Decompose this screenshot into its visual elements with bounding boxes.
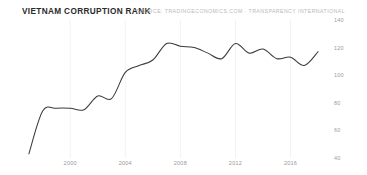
x-axis-tick-label: 2000 bbox=[64, 160, 77, 166]
data-line bbox=[29, 43, 318, 154]
x-axis-tick-label: 2012 bbox=[229, 160, 242, 166]
data-line-layer bbox=[22, 20, 325, 158]
x-axis-tick-label: 2004 bbox=[119, 160, 132, 166]
chart-source-attribution: SOURCE: TRADINGECONOMICS.COM · TRANSPARE… bbox=[136, 8, 345, 14]
page-title: VIETNAM CORRUPTION RANK bbox=[22, 6, 151, 16]
y-axis-tick-label: 100 bbox=[334, 72, 344, 78]
y-axis-tick-label: 40 bbox=[334, 155, 340, 161]
y-axis-tick-label: 80 bbox=[334, 100, 340, 106]
x-axis-tick-label: 2008 bbox=[174, 160, 187, 166]
y-axis-tick-label: 120 bbox=[334, 45, 344, 51]
y-axis-tick-label: 60 bbox=[334, 127, 340, 133]
y-axis-tick-label: 140 bbox=[334, 17, 344, 23]
plot-area bbox=[22, 20, 325, 158]
x-axis-tick-label: 2016 bbox=[284, 160, 297, 166]
chart-container: VIETNAM CORRUPTION RANK SOURCE: TRADINGE… bbox=[0, 0, 367, 175]
